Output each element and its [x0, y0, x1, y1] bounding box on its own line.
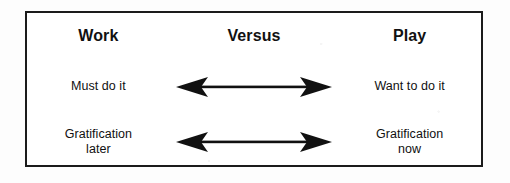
row-2-left-text: Gratification later — [27, 127, 170, 157]
row-2-right-line-2: now — [342, 142, 477, 157]
row-1-right-text: Want to do it — [338, 79, 481, 94]
column-heading-play: Play — [338, 27, 481, 46]
row-1-right-line-1: Want to do it — [342, 79, 477, 94]
row-2-arrow-cell — [170, 114, 338, 169]
column-heading-versus: Versus — [170, 27, 338, 46]
row-1-left-text: Must do it — [27, 79, 170, 94]
column-heading-work: Work — [27, 27, 170, 46]
diagram-grid: Work Versus Play Must do it Want to do i… — [27, 13, 481, 165]
double-headed-arrow-icon — [174, 129, 334, 155]
row-1-left-line-1: Must do it — [31, 79, 166, 94]
row-2-right-line-1: Gratification — [342, 127, 477, 142]
row-1-arrow-cell — [170, 59, 338, 114]
diagram-frame: Work Versus Play Must do it Want to do i… — [25, 11, 483, 167]
row-2-right-text: Gratification now — [338, 127, 481, 157]
row-2-left-line-2: later — [31, 142, 166, 157]
diagram-canvas: Work Versus Play Must do it Want to do i… — [0, 0, 510, 183]
double-headed-arrow-icon — [174, 74, 334, 100]
row-2-left-line-1: Gratification — [31, 127, 166, 142]
